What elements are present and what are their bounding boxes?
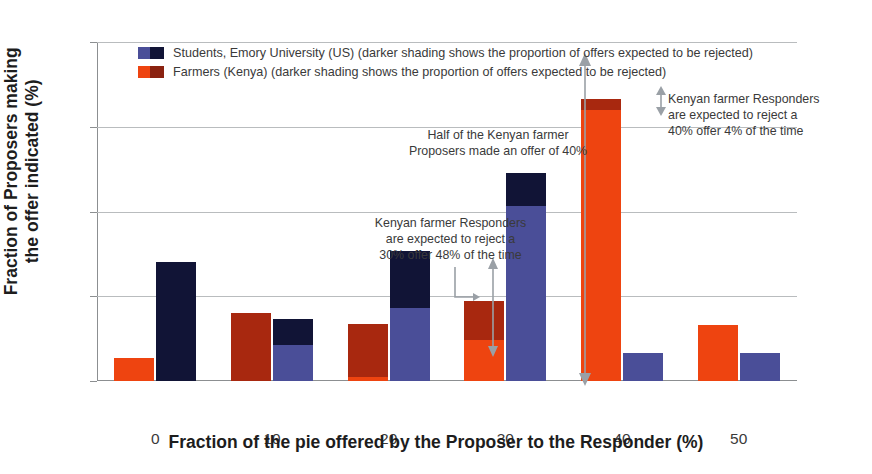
bar-segment-rejected: [156, 262, 196, 381]
bar-farmers-0: [114, 358, 154, 381]
y-axis-title-line2: the offer indicated (%): [22, 79, 42, 263]
bar-farmers-20: [348, 324, 388, 381]
bar-segment-accepted: [623, 353, 663, 381]
legend-item-students: Students, Emory University (US) (darker …: [138, 46, 753, 60]
bar-segment-accepted: [114, 358, 154, 381]
y-tick-mark: [90, 296, 97, 297]
legend-label-students: Students, Emory University (US) (darker …: [173, 46, 753, 60]
bar-segment-accepted: [740, 353, 780, 381]
legend-swatch-students-icon: [138, 47, 164, 59]
annotation-r30-line3: 30% offer 48% of the time: [379, 248, 521, 262]
bar-students-0: [156, 262, 196, 381]
bar-students-20: [390, 251, 430, 381]
annotation-half-line1: Half of the Kenyan farmer: [427, 128, 568, 142]
annotation-r30-line2: are expected to reject a: [386, 232, 516, 246]
gridline: [97, 42, 797, 43]
arrow-half-of-kenyan: [575, 50, 615, 386]
annotation-r40-line2: are expected to reject a: [668, 108, 798, 122]
arrow-30-reject: [449, 245, 509, 375]
x-axis-line: [97, 380, 797, 382]
bar-students-50: [740, 353, 780, 381]
legend-item-farmers: Farmers (Kenya) (darker shading shows th…: [138, 65, 753, 79]
bar-segment-rejected: [348, 324, 388, 377]
annotation-reject-30: Kenyan farmer Responders are expected to…: [358, 216, 543, 264]
annotation-half-line2: Proposers made an offer of 40%: [409, 144, 587, 158]
legend-label-farmers: Farmers (Kenya) (darker shading shows th…: [173, 65, 666, 79]
x-axis-title: Fraction of the pie offered by the Propo…: [0, 432, 872, 453]
bar-students-40: [623, 353, 663, 381]
legend-swatch-farmers-icon: [138, 66, 164, 78]
annotation-half-of-kenyan: Half of the Kenyan farmer Proposers made…: [398, 128, 598, 160]
y-tick-mark: [90, 381, 97, 382]
bar-segment-rejected: [231, 313, 271, 381]
bar-segment-accepted: [273, 345, 313, 381]
bar-students-10: [273, 319, 313, 381]
bar-segment-accepted: [698, 325, 738, 382]
annotation-r30-line1: Kenyan farmer Responders: [375, 216, 527, 230]
bar-students-30: [506, 173, 546, 381]
y-tick-mark: [90, 127, 97, 128]
y-axis-title: Fraction of Proposers making the offer i…: [1, 0, 44, 451]
bar-farmers-10: [231, 313, 271, 381]
gridline: [97, 212, 797, 213]
annotation-r40-line3: 40% offer 4% of the time: [668, 124, 803, 138]
gridline: [97, 296, 797, 297]
y-tick-mark: [90, 42, 97, 43]
bar-segment-accepted: [348, 377, 388, 381]
bar-farmers-50: [698, 325, 738, 382]
y-tick-mark: [90, 212, 97, 213]
annotation-reject-40: Kenyan farmer Responders are expected to…: [668, 92, 868, 140]
chart-legend: Students, Emory University (US) (darker …: [138, 46, 753, 84]
bar-segment-rejected: [273, 319, 313, 345]
bar-segment-accepted: [390, 308, 430, 381]
annotation-r40-line1: Kenyan farmer Responders: [668, 92, 820, 106]
y-axis-title-line1: Fraction of Proposers making: [1, 47, 21, 295]
bar-segment-rejected: [506, 173, 546, 206]
